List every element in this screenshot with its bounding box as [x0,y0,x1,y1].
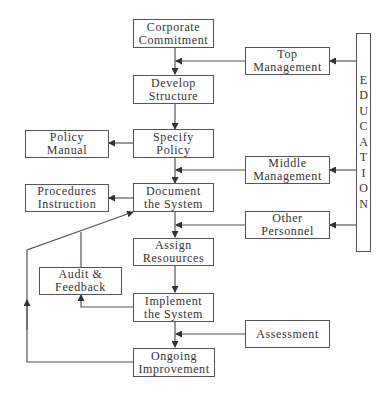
box-label-line2: Management [253,61,322,74]
ongoing-improvement-box: Ongoing Improvement [133,348,215,377]
corporate-commitment-box: Corporate Commitment [133,19,214,48]
box-label-line2: Manual [47,144,87,157]
procedures-instruction-box: Procedures Instruction [25,184,109,212]
box-label-line2: Management [253,170,322,183]
box-label: Assessment [256,328,319,341]
box-label-line1: Specify [153,131,194,144]
box-label-line2: Structure [149,90,198,103]
box-label-line2: Feedback [55,281,106,294]
education-letter: E [360,73,367,89]
box-label-line1: Ongoing [151,350,197,363]
education-letter: C [359,119,367,135]
top-management-box: Top Management [245,47,330,75]
box-label-line2: Resouurces [143,252,204,265]
education-bar: E D U C A T I O N [356,33,371,252]
box-label-line1: Corporate [147,21,200,34]
education-letter: A [359,135,368,151]
education-letter: D [359,88,368,104]
specify-policy-box: Specify Policy [133,129,214,158]
box-label-line2: Commitment [139,34,208,47]
box-label-line1: Implement [145,295,202,308]
box-label-line2: Instruction [38,198,97,211]
box-label-line2: the System [144,198,203,211]
box-label-line2: Policy [156,144,190,157]
box-label-line2: Personnel [261,225,314,238]
assign-resources-box: Assign Resouurces [133,238,214,266]
education-letter: U [359,104,368,120]
audit-feedback-box: Audit & Feedback [39,267,122,295]
document-system-box: Document the System [133,183,214,212]
education-letter: O [359,181,368,197]
implement-system-box: Implement the System [133,293,214,322]
other-personnel-box: Other Personnel [245,211,330,239]
middle-management-box: Middle Management [245,156,330,184]
education-letter: T [360,150,367,166]
box-label-line2: the System [144,308,203,321]
assessment-box: Assessment [245,320,330,348]
policy-manual-box: Policy Manual [25,130,109,158]
box-label-line1: Document [146,185,201,198]
box-label-line1: Develop [151,77,196,90]
develop-structure-box: Develop Structure [133,75,214,104]
education-letter: N [359,197,368,213]
education-letter: I [362,166,366,182]
box-label-line2: Improvement [138,363,209,376]
